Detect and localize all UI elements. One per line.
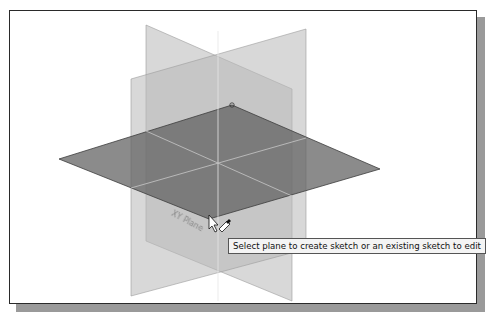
tooltip: Select plane to create sketch or an exis… xyxy=(228,238,486,254)
graphics-viewport[interactable]: XY Plane xyxy=(9,10,477,304)
datum-planes-scene xyxy=(10,11,476,303)
top-plane[interactable] xyxy=(59,105,380,219)
